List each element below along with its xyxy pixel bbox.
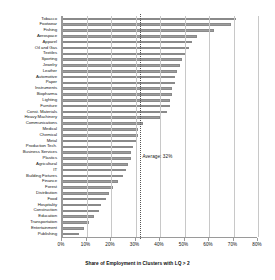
bar (62, 163, 128, 166)
bar (62, 53, 185, 56)
bar (62, 233, 79, 236)
x-tick-label: 50% (179, 242, 189, 247)
category-label: Leather (43, 69, 57, 74)
gridline-0 (62, 16, 63, 237)
x-tick (184, 238, 185, 241)
x-tick-label: 0% (58, 242, 65, 247)
gridline-10 (87, 16, 88, 237)
category-label: Food (47, 197, 57, 202)
bar (62, 227, 84, 230)
bar (62, 180, 118, 183)
bar (62, 175, 123, 178)
category-label: Jewelry (43, 63, 57, 68)
x-tick (135, 238, 136, 241)
bar (62, 58, 182, 61)
bar (62, 105, 170, 108)
category-label: Chemical (39, 133, 57, 138)
bar (62, 215, 94, 218)
bar (62, 146, 133, 149)
x-tick-label: 80% (252, 242, 262, 247)
bar (62, 210, 99, 213)
x-tick-label: 10% (81, 242, 91, 247)
bar (62, 169, 126, 172)
bar (62, 128, 138, 131)
bar (62, 29, 214, 32)
bar (62, 47, 189, 50)
gridline-50 (185, 16, 186, 237)
gridline-20 (111, 16, 112, 237)
category-label: Distribution (36, 191, 57, 196)
x-tick-label: 30% (130, 242, 140, 247)
x-tick (110, 238, 111, 241)
bar (62, 41, 192, 44)
x-tick (61, 238, 62, 241)
x-axis-line (61, 237, 257, 240)
y-axis-category-labels: TobaccoFootwearFishingAerospaceApparelOi… (0, 16, 59, 237)
bar (62, 134, 138, 137)
category-label: Biopharma (37, 92, 57, 97)
category-label: Agricultural (36, 162, 57, 167)
bar (62, 64, 180, 67)
category-label: Publishing (38, 232, 57, 237)
bar (62, 99, 170, 102)
average-annotation-label: Average: 32% (142, 154, 172, 159)
x-tick-label: 70% (228, 242, 238, 247)
category-label: Furniture (40, 104, 57, 109)
gridline-60 (209, 16, 210, 237)
bar (62, 93, 172, 96)
x-tick (159, 238, 160, 241)
gridline-30 (136, 16, 137, 237)
category-label: IT (53, 168, 57, 173)
category-label: Lighting (42, 98, 57, 103)
x-tick-label: 20% (105, 242, 115, 247)
bar (62, 198, 106, 201)
x-tick (257, 238, 258, 241)
x-axis-title: Share of Employment in Clusters with LQ … (0, 261, 275, 266)
category-label: Transportation (30, 220, 57, 225)
x-tick (208, 238, 209, 241)
bar (62, 221, 89, 224)
bar (62, 35, 197, 38)
category-label: Entertainment (31, 226, 57, 231)
bar (62, 186, 113, 189)
category-label: Medical (43, 127, 57, 132)
plot-area (61, 16, 257, 237)
bar (62, 82, 175, 85)
bar (62, 151, 131, 154)
average-reference-line (140, 14, 141, 239)
bar (62, 157, 131, 160)
x-tick-label: 60% (203, 242, 213, 247)
category-label: Apparel (43, 40, 57, 45)
gridline-40 (160, 16, 161, 237)
gridline-70 (234, 16, 235, 237)
x-tick (233, 238, 234, 241)
cluster-employment-bar-chart: TobaccoFootwearFishingAerospaceApparelOi… (0, 0, 275, 280)
category-label: Plastics (43, 156, 57, 161)
bar (62, 204, 101, 207)
bar (62, 87, 172, 90)
bar (62, 122, 143, 125)
x-tick-label: 40% (154, 242, 164, 247)
bar (62, 111, 167, 114)
category-label: Aerospace (37, 34, 57, 39)
x-tick (86, 238, 87, 241)
bar (62, 140, 136, 143)
gridline-80 (258, 16, 259, 237)
bar (62, 192, 109, 195)
bar (62, 76, 175, 79)
